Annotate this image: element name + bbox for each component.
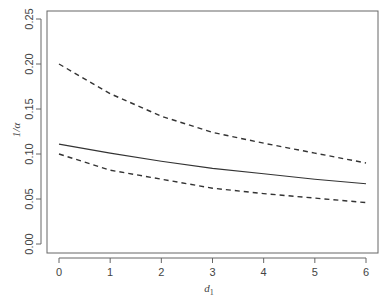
estimate-line <box>59 144 366 184</box>
x-tick-label: 3 <box>209 266 215 278</box>
x-tick-label: 1 <box>107 266 113 278</box>
plot-frame <box>47 11 378 253</box>
y-axis-title: 1/α <box>10 123 22 138</box>
y-tick-label: 0.25 <box>23 8 35 29</box>
bound-line <box>59 154 366 203</box>
plot-lines <box>59 64 366 203</box>
y-tick-label: 0.15 <box>23 98 35 119</box>
y-tick-label: 0.00 <box>23 233 35 254</box>
x-axis-title: d1 <box>204 282 214 297</box>
x-tick-label: 5 <box>312 266 318 278</box>
x-tick-label: 0 <box>56 266 62 278</box>
y-tick-label: 0.10 <box>23 143 35 164</box>
x-tick-label: 2 <box>158 266 164 278</box>
x-tick-label: 6 <box>363 266 369 278</box>
x-tick-label: 4 <box>261 266 267 278</box>
y-axis: 0.000.050.100.150.200.25 <box>23 8 41 254</box>
y-tick-label: 0.05 <box>23 188 35 209</box>
y-tick-label: 0.20 <box>23 53 35 74</box>
x-axis: 0123456 <box>56 258 369 278</box>
chart: 0.000.050.100.150.200.25 0123456 1/α d1 <box>0 0 388 300</box>
bound-line <box>59 64 366 163</box>
